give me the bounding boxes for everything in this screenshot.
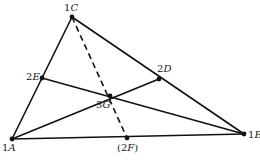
label-f: (2F) bbox=[117, 142, 138, 153]
label-a: 1A bbox=[2, 142, 16, 153]
point-b bbox=[242, 132, 247, 137]
point-a bbox=[10, 137, 15, 142]
point-c bbox=[70, 15, 75, 20]
segment-ad bbox=[12, 79, 159, 139]
label-b: 1B bbox=[248, 129, 260, 140]
point-g bbox=[108, 94, 113, 99]
point-e bbox=[40, 76, 45, 81]
segments-group bbox=[12, 17, 244, 139]
label-e: 2E bbox=[26, 71, 40, 82]
segment-eb bbox=[42, 78, 244, 134]
label-g: 3G bbox=[96, 99, 110, 110]
label-c: 1C bbox=[64, 2, 78, 13]
point-f bbox=[125, 136, 130, 141]
label-d: 2D bbox=[157, 63, 171, 74]
point-d bbox=[157, 77, 162, 82]
triangle-diagram: 1A1B1C2D2E(2F)3G bbox=[0, 0, 260, 160]
points-group bbox=[10, 15, 247, 142]
